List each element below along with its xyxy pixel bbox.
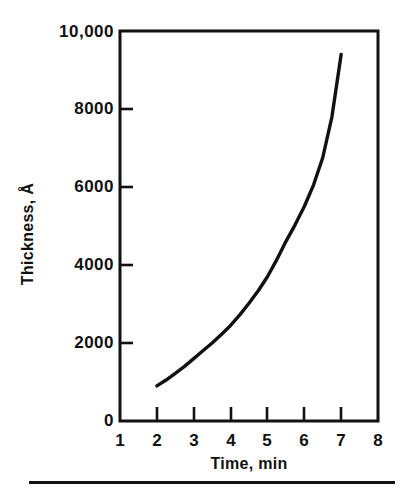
x-axis-ticks <box>157 407 341 421</box>
y-axis-ticks <box>120 109 133 343</box>
plot-area <box>0 0 412 491</box>
axis-frame <box>120 31 378 421</box>
chart-figure: 10,000 8000 6000 4000 2000 0 1 2 3 4 5 6… <box>0 0 412 491</box>
plot-box-border <box>120 31 378 421</box>
footer-rule <box>29 481 395 484</box>
data-series-line <box>157 54 341 386</box>
